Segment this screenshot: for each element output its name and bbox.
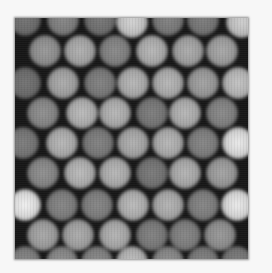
sphere-particle	[222, 67, 248, 99]
sphere-particle	[27, 157, 59, 189]
sphere-particle	[116, 18, 148, 38]
sphere-particle	[187, 127, 219, 159]
sphere-particle	[81, 189, 113, 221]
sphere-particle	[82, 127, 114, 159]
sphere-particle	[206, 157, 238, 189]
sphere-particle	[46, 189, 78, 221]
sphere-particle	[64, 35, 96, 67]
sphere-particle	[221, 189, 248, 221]
sphere-particle	[84, 18, 116, 36]
sphere-particle	[84, 67, 116, 99]
sphere-particle	[136, 35, 168, 67]
sphere-particle	[27, 97, 59, 129]
sphere-particle	[169, 157, 201, 189]
sphere-particle	[206, 97, 238, 129]
sphere-particle	[15, 189, 41, 221]
sphere-particle	[169, 97, 201, 129]
sphere-particle	[172, 35, 204, 67]
sphere-particle	[152, 189, 184, 221]
sphere-particle	[99, 35, 131, 67]
sphere-particle	[15, 127, 39, 159]
sphere-particle	[46, 127, 78, 159]
sphere-particle	[152, 18, 184, 36]
sphere-particle	[152, 127, 184, 159]
sphere-particle	[187, 189, 219, 221]
sphere-particle	[117, 127, 149, 159]
sphere-particle	[99, 97, 131, 129]
sphere-particle	[15, 18, 41, 36]
sphere-array	[15, 18, 248, 259]
sphere-particle	[29, 35, 61, 67]
sphere-particle	[15, 67, 41, 99]
sphere-particle	[152, 67, 184, 99]
sphere-particle	[66, 97, 98, 129]
sphere-particle	[206, 35, 238, 67]
sphere-particle	[187, 18, 219, 36]
sphere-particle	[117, 67, 149, 99]
sphere-particle	[117, 189, 149, 221]
sphere-particle	[47, 18, 79, 36]
sphere-particle	[226, 18, 248, 38]
sphere-particle	[47, 67, 79, 99]
sphere-particle	[222, 127, 248, 159]
sphere-particle	[64, 157, 96, 189]
sphere-particle	[27, 219, 59, 251]
sphere-particle	[136, 157, 168, 189]
sphere-particle	[187, 67, 219, 99]
sphere-particle	[136, 97, 168, 129]
sphere-particle	[99, 157, 131, 189]
particle-micrograph	[15, 18, 248, 259]
